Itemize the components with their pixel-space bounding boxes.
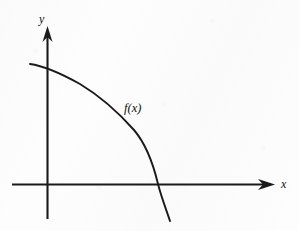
x-axis-label: x xyxy=(281,178,286,190)
function-curve xyxy=(30,64,170,221)
graph-canvas xyxy=(0,0,299,231)
y-axis-label: y xyxy=(39,13,44,25)
function-graph-figure: y x f(x) xyxy=(0,0,299,231)
function-curve-label: f(x) xyxy=(124,102,141,115)
